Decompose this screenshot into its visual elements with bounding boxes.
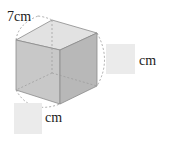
bottom-edge-unit: cm xyxy=(45,111,62,125)
cube-front-face xyxy=(16,40,60,104)
bottom-edge-answer-box[interactable] xyxy=(14,103,42,134)
given-edge-label: 7cm xyxy=(7,10,31,24)
right-edge-unit: cm xyxy=(139,54,156,68)
cube-diagram: 7cm cm cm xyxy=(0,0,171,142)
right-edge-answer-box[interactable] xyxy=(106,44,135,74)
